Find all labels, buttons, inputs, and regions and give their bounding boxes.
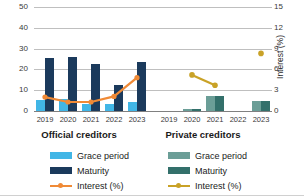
interest-point-private-2023 bbox=[258, 51, 264, 57]
y-axis-left-tick-10: 10 bbox=[4, 86, 28, 94]
interest-point-official-2020 bbox=[65, 99, 70, 104]
interest-point-official-2019 bbox=[42, 95, 47, 100]
group-title-private: Private creditors bbox=[143, 129, 263, 140]
y-axis-right-tick-3: 3 bbox=[274, 86, 298, 94]
y-axis-left-tick-20: 20 bbox=[4, 65, 28, 73]
plot-area bbox=[34, 7, 272, 111]
legend-swatch-interest-private bbox=[168, 182, 190, 189]
y-axis-left-tick-30: 30 bbox=[4, 45, 28, 53]
legend-swatch-maturity-official bbox=[50, 167, 72, 174]
interest-point-official-2023 bbox=[134, 75, 139, 80]
y-axis-right-title: Interest (%) bbox=[275, 35, 285, 79]
interest-point-official-2022 bbox=[111, 94, 116, 99]
interest-point-official-2021 bbox=[88, 99, 93, 104]
y-axis-left-tick-40: 40 bbox=[4, 24, 28, 32]
legend-label-official-maturity: Maturity bbox=[77, 166, 109, 176]
x-axis-baseline bbox=[34, 111, 272, 112]
x-tick-private-2023: 2023 bbox=[248, 116, 274, 124]
legend-label-private-interest: Interest (%) bbox=[195, 181, 242, 191]
interest-lines-layer bbox=[34, 7, 272, 111]
interest-point-private-2020 bbox=[189, 72, 195, 78]
y-axis-right-tick-15: 15 bbox=[274, 3, 298, 11]
y-axis-right-tick-12: 12 bbox=[274, 24, 298, 32]
interest-line-official bbox=[45, 78, 137, 102]
legend-label-official-grace: Grace period bbox=[77, 151, 129, 161]
legend-swatch-interest-official bbox=[50, 182, 72, 189]
y-axis-right-tick-0: 0 bbox=[274, 107, 298, 115]
interest-point-private-2021 bbox=[212, 83, 218, 89]
legend-item-private-interest[interactable]: Interest (%) bbox=[168, 178, 304, 193]
legend-item-private-maturity[interactable]: Maturity bbox=[168, 163, 304, 178]
group-title-official: Official creditors bbox=[19, 129, 139, 140]
legend-label-private-maturity: Maturity bbox=[195, 166, 227, 176]
y-axis-left-tick-50: 50 bbox=[4, 3, 28, 11]
legend-label-official-interest: Interest (%) bbox=[77, 181, 124, 191]
legend-swatch-grace-private bbox=[168, 152, 190, 159]
y-axis-left-tick-0: 0 bbox=[4, 107, 28, 115]
chart-container: 50 40 30 20 10 0 15 12 9 6 3 0 Years Int… bbox=[0, 0, 304, 196]
legend-item-private-grace[interactable]: Grace period bbox=[168, 148, 304, 163]
bottom-divider bbox=[0, 195, 304, 196]
legend-swatch-grace-official bbox=[50, 152, 72, 159]
x-tick-official-2023: 2023 bbox=[124, 116, 150, 124]
interest-line-private bbox=[192, 75, 215, 85]
legend-label-private-grace: Grace period bbox=[195, 151, 247, 161]
legend-private: Grace period Maturity Interest (%) bbox=[168, 148, 304, 193]
legend-swatch-maturity-private bbox=[168, 167, 190, 174]
